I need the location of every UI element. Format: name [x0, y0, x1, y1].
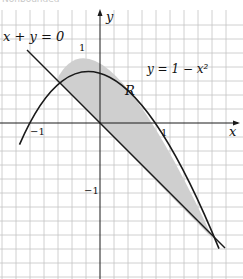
tick-label-y-1: 1 [79, 43, 85, 53]
y-axis-label: y [106, 10, 113, 23]
parabola-equation-label: y = 1 − x² [147, 63, 208, 75]
line-x-plus-y-zero [27, 50, 225, 248]
tick-label-y-neg1: −1 [84, 186, 99, 196]
axes [0, 12, 238, 279]
tick-label-x-neg1: −1 [30, 127, 45, 137]
x-axis-label: x [229, 125, 236, 138]
y-axis-arrow-icon [98, 9, 103, 16]
line-equation-label: x + y = 0 [3, 30, 64, 43]
region-label: R [125, 84, 135, 97]
tick-label-x-1: 1 [161, 128, 167, 138]
